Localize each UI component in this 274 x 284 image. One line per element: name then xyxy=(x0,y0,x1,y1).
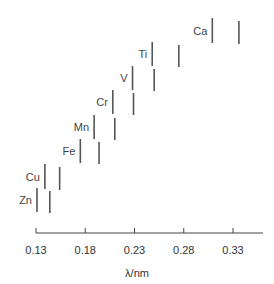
element-label-ti: Ti xyxy=(138,48,147,60)
chart: 0.130.180.230.280.33λ/nmZnCuFeMnCrVTiCa xyxy=(0,0,274,284)
x-axis-label: λ/nm xyxy=(125,267,149,279)
x-tick-label: 0.23 xyxy=(124,244,145,256)
element-label-v: V xyxy=(120,72,128,84)
element-label-mn: Mn xyxy=(74,121,89,133)
element-label-cr: Cr xyxy=(96,96,108,108)
x-tick-label: 0.28 xyxy=(173,244,194,256)
element-label-cu: Cu xyxy=(26,171,40,183)
element-label-fe: Fe xyxy=(62,145,75,157)
x-tick-label: 0.13 xyxy=(25,244,46,256)
element-label-ca: Ca xyxy=(193,25,208,37)
x-tick-label: 0.33 xyxy=(222,244,243,256)
x-tick-label: 0.18 xyxy=(75,244,96,256)
element-label-zn: Zn xyxy=(19,194,32,206)
